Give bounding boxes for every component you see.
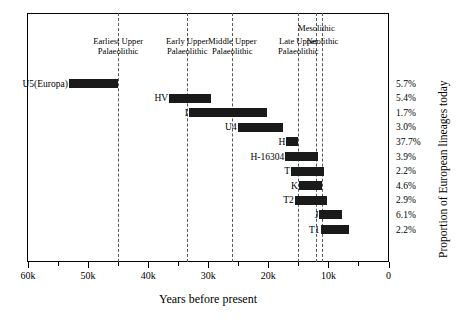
period-label-neolithic: Neolithic: [306, 37, 338, 47]
period-label-mesolithic: Mesolithic: [298, 24, 335, 34]
x-minor-tick-35000: [178, 262, 179, 266]
x-minor-tick-25000: [238, 262, 239, 266]
bar-label-hv: HV: [154, 94, 169, 103]
x-tick-label-20k: 20k: [261, 270, 276, 281]
bar-u4: [238, 123, 284, 132]
bar-label-k: K: [291, 182, 299, 191]
y-axis-title-right: Proportion of European lineages today: [437, 80, 449, 258]
x-tick-40k: [148, 262, 149, 268]
x-minor-tick-5000: [358, 262, 359, 266]
bar-label-h: H: [278, 138, 286, 147]
x-tick-60k: [28, 262, 29, 268]
bar-t: [291, 167, 323, 176]
x-tick-label-10k: 10k: [321, 270, 336, 281]
bar-h: [286, 137, 297, 146]
bar-label-i: I: [185, 109, 189, 118]
percent-label-i: 1.7%: [396, 109, 416, 118]
x-tick-label-60k: 60k: [21, 270, 36, 281]
bar-label-t1: T1: [309, 226, 321, 235]
bar-hv: [169, 94, 211, 103]
bar-label-h-16304: H-16304: [250, 153, 285, 162]
percent-label-t: 2.2%: [396, 167, 416, 176]
bar-label-u4: U4: [225, 123, 238, 132]
period-label-line1: Neolithic: [306, 37, 338, 47]
percent-label-t1: 2.2%: [396, 226, 416, 235]
percent-label-u5europa: 5.7%: [396, 80, 416, 89]
x-tick-0: [389, 262, 390, 268]
x-minor-tick-15000: [298, 262, 299, 266]
period-label-line2: Palaeolithic: [208, 47, 256, 57]
period-label-middle-upper: Middle UpperPalaeolithic: [208, 37, 256, 56]
percent-label-h: 37.7%: [396, 138, 421, 147]
period-label-earliest-upper: Earliest UpperPalaeolithic: [93, 37, 143, 56]
bar-j: [319, 210, 342, 219]
x-tick-label-40k: 40k: [141, 270, 156, 281]
bar-label-u5europa: U5(Europa): [22, 80, 68, 89]
period-label-line1: Mesolithic: [298, 24, 335, 34]
percent-label-u4: 3.0%: [396, 123, 416, 132]
x-minor-tick-55000: [58, 262, 59, 266]
percent-label-j: 6.1%: [396, 211, 416, 220]
x-minor-tick-45000: [118, 262, 119, 266]
bar-label-t: T: [284, 167, 291, 176]
x-tick-label-50k: 50k: [81, 270, 96, 281]
percent-label-h-16304: 3.9%: [396, 153, 416, 162]
bar-t2: [295, 196, 327, 205]
bar-k: [299, 181, 322, 190]
x-axis-title: Years before present: [159, 292, 257, 307]
x-tick-50k: [88, 262, 89, 268]
period-label-early-upper: Early UpperPalaeolithic: [166, 37, 208, 56]
bar-h-16304: [285, 152, 318, 161]
x-tick-label-30k: 30k: [201, 270, 216, 281]
percent-label-k: 4.6%: [396, 182, 416, 191]
x-tick-30k: [208, 262, 209, 268]
bar-label-t2: T2: [283, 196, 295, 205]
percent-label-t2: 2.9%: [396, 196, 416, 205]
x-tick-20k: [268, 262, 269, 268]
bar-t1: [321, 225, 350, 234]
bar-u5europa: [69, 79, 118, 88]
bar-label-j: J: [315, 211, 320, 220]
x-tick-label-0: 0: [386, 270, 391, 281]
percent-label-hv: 5.4%: [396, 94, 416, 103]
chart-root: Earliest UpperPalaeolithicEarly UpperPal…: [0, 0, 463, 322]
bar-i: [189, 108, 267, 117]
period-label-line2: Palaeolithic: [93, 47, 143, 57]
period-label-line2: Palaeolithic: [278, 47, 319, 57]
x-tick-10k: [328, 262, 329, 268]
period-label-line2: Palaeolithic: [166, 47, 208, 57]
